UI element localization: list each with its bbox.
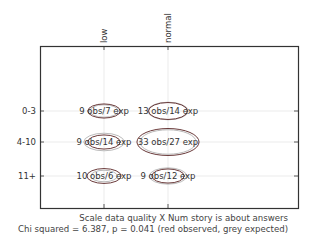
- x-tick-label: normal: [163, 13, 173, 43]
- cell-label: 9 obs/14 exp: [76, 137, 131, 147]
- chart-title: Scale data quality X Num story is about …: [79, 213, 288, 223]
- y-tick-label: 0-3: [22, 106, 36, 116]
- cell-ellipses: 9 obs/7 exp13 obs/14 exp9 obs/14 exp33 o…: [76, 102, 199, 184]
- cell-label: 10 obs/6 exp: [76, 171, 131, 181]
- chart-statistics: Chi squared = 6.387, p = 0.041 (red obse…: [18, 224, 288, 234]
- cell-label: 33 obs/27 exp: [138, 137, 198, 147]
- cell-label: 13 obs/14 exp: [138, 106, 198, 116]
- x-tick-label: low: [99, 28, 109, 43]
- contingency-chart: lownormal 0-34-1011+ 9 obs/7 exp13 obs/1…: [0, 0, 314, 244]
- cell-label: 9 obs/7 exp: [79, 106, 129, 116]
- y-tick-label: 11+: [18, 171, 36, 181]
- cell-label: 9 obs/12 exp: [140, 171, 195, 181]
- y-tick-label: 4-10: [17, 137, 36, 147]
- cell-0-3-low: 9 obs/7 exp: [79, 104, 129, 118]
